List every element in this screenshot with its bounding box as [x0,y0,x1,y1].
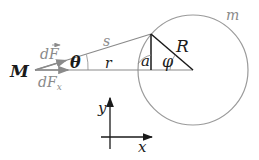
label-M: M [9,61,30,81]
gravity-ring-diagram: M m s r R θ φ a dF dFx y x [0,0,259,160]
label-r: r [105,55,113,71]
label-dF: dF [40,46,60,62]
label-R: R [175,36,189,56]
label-dFx: dFx [38,74,62,92]
label-m: m [226,7,239,23]
label-a: a [141,52,150,70]
label-dFx-subscript: x [57,82,62,92]
theta-arc [87,55,89,70]
label-phi: φ [162,52,174,71]
label-theta: θ [70,53,81,72]
label-axis-x: x [138,138,147,156]
label-axis-y: y [97,99,107,117]
label-s: s [103,33,110,49]
